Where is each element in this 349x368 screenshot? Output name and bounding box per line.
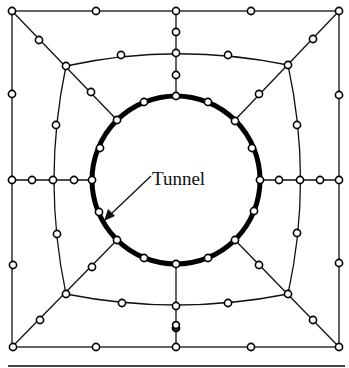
mesh-node <box>231 117 238 124</box>
mesh-node <box>172 302 179 309</box>
mesh-node <box>95 208 102 215</box>
mesh-node <box>117 51 124 58</box>
mesh-node <box>293 229 300 236</box>
mesh-node <box>247 343 254 350</box>
mesh-node <box>172 343 179 350</box>
mesh-node <box>172 7 179 14</box>
mesh-node <box>172 71 179 78</box>
mesh-node <box>293 121 300 128</box>
mesh-node <box>316 176 323 183</box>
mesh-node <box>52 121 59 128</box>
mesh-node <box>284 290 291 297</box>
mesh-node <box>35 36 42 43</box>
mesh-node <box>88 176 95 183</box>
mesh-node <box>70 176 77 183</box>
tunnel-label: Tunnel <box>152 168 205 189</box>
mesh-node <box>275 176 282 183</box>
mesh-node <box>309 316 316 323</box>
mesh-node <box>335 7 342 14</box>
mesh-node <box>140 254 147 261</box>
mesh-node <box>204 98 211 105</box>
mesh-node <box>255 261 262 268</box>
mesh-node <box>173 322 180 329</box>
mesh-node <box>172 260 179 267</box>
mesh-node <box>8 176 15 183</box>
mesh-node <box>118 299 125 306</box>
mesh-node <box>255 90 262 97</box>
mesh-node <box>88 263 95 270</box>
mesh-node <box>335 176 342 183</box>
mesh-node <box>62 62 69 69</box>
mesh-node <box>9 261 16 268</box>
mesh-node <box>172 92 179 99</box>
mesh-node <box>53 230 60 237</box>
mesh-node <box>204 254 211 261</box>
mesh-node <box>113 116 120 123</box>
mesh-node <box>96 144 103 151</box>
mesh-node <box>49 176 56 183</box>
mesh-node <box>92 7 99 14</box>
mesh-node <box>224 51 231 58</box>
mesh-node <box>335 259 342 266</box>
mesh-node <box>87 88 94 95</box>
mesh-node <box>231 236 238 243</box>
mesh-node <box>250 207 257 214</box>
mesh-node <box>92 343 99 350</box>
mesh-node <box>335 91 342 98</box>
mesh-node <box>140 98 147 105</box>
mesh-node <box>224 299 231 306</box>
mesh-node <box>28 176 35 183</box>
mesh-node <box>309 35 316 42</box>
mesh-node <box>247 7 254 14</box>
mesh-node <box>256 176 263 183</box>
mesh-node <box>8 7 15 14</box>
mesh-node <box>248 144 255 151</box>
mesh-node <box>62 290 69 297</box>
tunnel-mesh-diagram: Tunnel <box>0 0 349 368</box>
mesh-node <box>172 28 179 35</box>
mesh-node <box>8 90 15 97</box>
tunnel-arrow-line <box>110 176 151 215</box>
mesh-node <box>296 176 303 183</box>
mesh-node <box>284 61 291 68</box>
mesh-node <box>113 236 120 243</box>
mesh-node <box>172 49 179 56</box>
mesh-node <box>9 343 16 350</box>
tunnel-arrow-head <box>104 209 115 221</box>
mesh-node <box>36 316 43 323</box>
mesh-node <box>335 343 342 350</box>
